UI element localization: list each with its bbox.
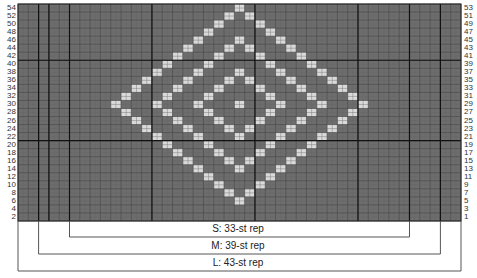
row-number-left: 2 — [0, 213, 16, 221]
knitting-chart — [0, 0, 477, 278]
repeat-label: L: 43-st rep — [138, 257, 338, 269]
repeat-label: S: 33-st rep — [138, 223, 338, 235]
row-number-right: 1 — [464, 213, 477, 221]
repeat-label: M: 39-st rep — [138, 240, 338, 252]
